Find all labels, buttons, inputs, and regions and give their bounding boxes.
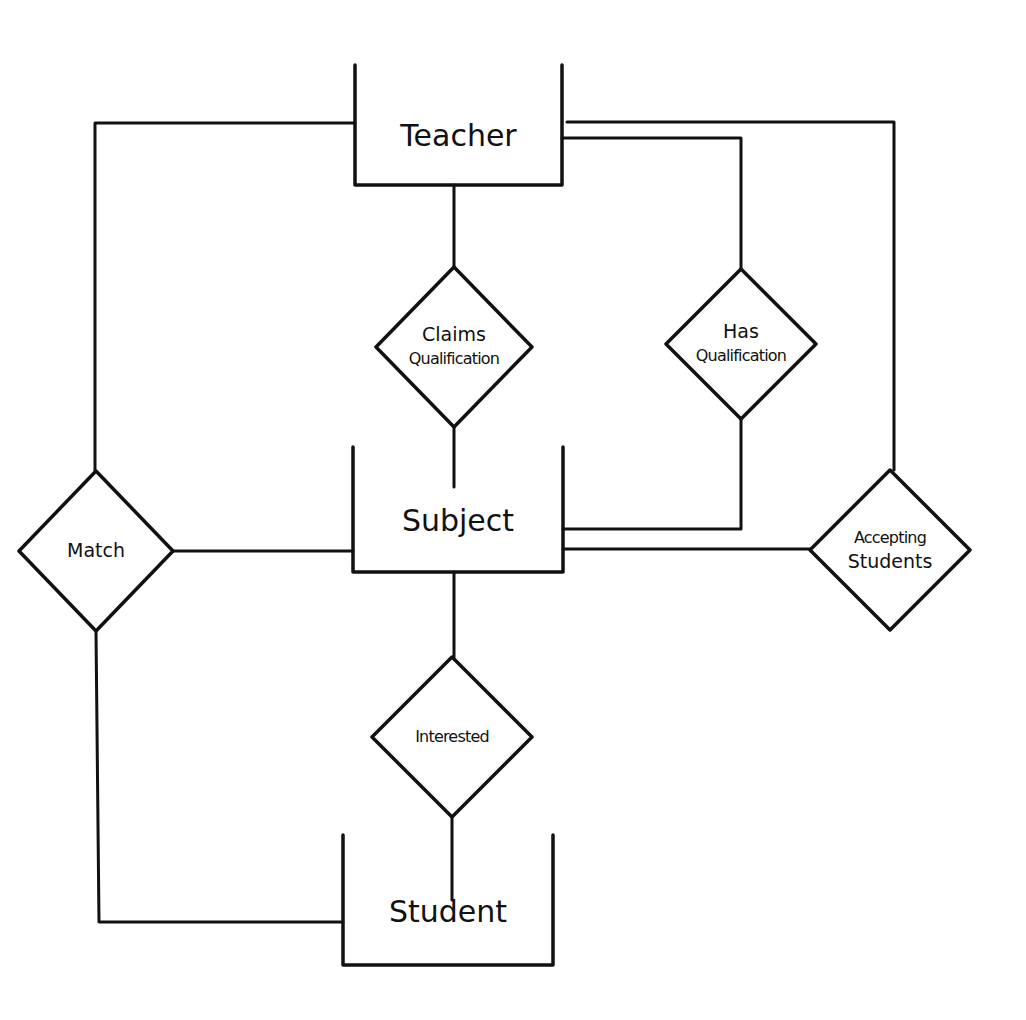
entity-label: Teacher <box>399 118 517 153</box>
relationship-accepting_students: AcceptingStudents <box>810 470 970 630</box>
relationship-match: Match <box>19 471 173 631</box>
connector-teacher-has_qualification <box>562 138 741 269</box>
relationship-has_qualification: HasQualification <box>666 269 816 419</box>
relationship-diamond <box>376 267 532 427</box>
entity-label: Student <box>389 894 507 929</box>
connector-match-student <box>96 631 343 922</box>
er-diagram: TeacherSubjectStudent ClaimsQualificatio… <box>0 0 1026 1020</box>
entity-subject: Subject <box>353 447 563 572</box>
relationship-label: Claims <box>422 323 486 345</box>
relationship-interested: Interested <box>372 657 532 817</box>
connector-has_qualification-subject <box>563 419 741 529</box>
relationship-label: Students <box>848 550 933 572</box>
entity-label: Subject <box>402 503 514 538</box>
relationships: ClaimsQualificationHasQualificationMatch… <box>19 267 970 817</box>
connector-teacher-match <box>95 123 355 471</box>
entity-teacher: Teacher <box>355 65 562 185</box>
relationship-label: Interested <box>415 727 489 746</box>
entity-student: Student <box>343 835 553 965</box>
relationship-label: Accepting <box>854 528 926 547</box>
relationship-label: Has <box>723 320 759 342</box>
relationship-diamond <box>666 269 816 419</box>
relationship-label: Match <box>67 539 125 561</box>
relationship-label: Qualification <box>696 346 786 365</box>
relationship-claims_qualification: ClaimsQualification <box>376 267 532 427</box>
relationship-label: Qualification <box>409 349 499 368</box>
